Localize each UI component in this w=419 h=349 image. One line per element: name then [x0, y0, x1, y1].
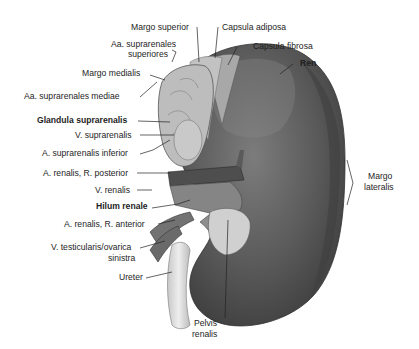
label-glandula-suprarenalis: Glandula suprarenalis — [37, 115, 127, 125]
label-a-renalis-r-anterior: A. renalis, R. anterior — [64, 219, 145, 229]
label-capsula-adiposa: Capsula adiposa — [222, 22, 286, 32]
label-a-renalis-r-posterior: A. renalis, R. posterior — [43, 168, 128, 178]
label-ureter: Ureter — [119, 272, 143, 282]
label-v-renalis: V. renalis — [95, 185, 130, 195]
label-margo-superior: Margo superior — [131, 22, 189, 32]
label-margo-lateralis-1: Margo — [368, 171, 392, 181]
label-margo-lateralis-2: lateralis — [364, 182, 394, 192]
label-aa-suprarenales-mediae: Aa. suprarenales mediae — [24, 91, 120, 101]
label-v-suprarenalis: V. suprarenalis — [75, 130, 132, 140]
kidney-anatomy-figure: Margo superior Capsula adiposa Aa. supra… — [0, 0, 419, 349]
label-pelvis-renalis-2: renalis — [192, 329, 217, 339]
label-margo-medialis: Margo medialis — [82, 68, 140, 78]
label-ren: Ren — [300, 58, 316, 68]
label-aa-suprarenales-superiores-1: Aa. suprarenales — [98, 39, 176, 49]
label-capsula-fibrosa: Capsula fibrosa — [253, 41, 313, 51]
label-hilum-renale: Hilum renale — [96, 201, 148, 211]
label-a-suprarenalis-inferior: A. suprarenalis inferior — [42, 148, 128, 158]
label-v-testicularis-1: V. testicularis/ovarica — [51, 242, 131, 252]
ureter — [168, 242, 191, 328]
label-aa-suprarenales-superiores-2: superiores — [98, 49, 168, 59]
label-v-testicularis-2: sinistra — [108, 253, 135, 263]
label-pelvis-renalis-1: Pelvis — [194, 318, 217, 328]
